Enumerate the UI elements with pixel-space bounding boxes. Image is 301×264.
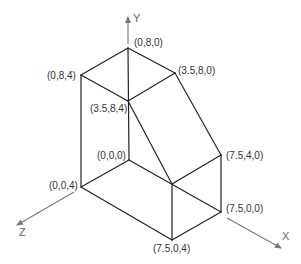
z-axis-label: Z <box>19 226 26 238</box>
edge <box>129 160 221 212</box>
vertex-label-0-8-4: (0,8,4) <box>47 70 76 81</box>
x-axis-arrow <box>227 218 281 248</box>
vertex-label-3.5-8-4: (3.5,8,4) <box>90 103 127 114</box>
vertex-label-7.5-0-4: (7.5,0,4) <box>153 243 190 254</box>
vertex-label-7.5-0-0: (7.5,0,0) <box>226 203 263 214</box>
edge <box>175 73 221 155</box>
z-axis-arrow <box>17 192 74 225</box>
x-axis-label: X <box>282 230 290 242</box>
edge <box>81 75 128 101</box>
vertex-label-0-0-0: (0,0,0) <box>97 150 126 161</box>
isometric-diagram: Y X Z (0,8,0) (0,8,4) (3.5,8,0) (3.5,8,4… <box>0 0 301 264</box>
vertex-label-0-0-4: (0,0,4) <box>49 180 78 191</box>
edge <box>81 160 129 187</box>
edge <box>81 48 128 75</box>
edge <box>81 187 172 240</box>
y-axis-label: Y <box>133 12 141 24</box>
vertex-label-3.5-8-0: (3.5,8,0) <box>178 65 215 76</box>
vertex-label-0-8-0: (0,8,0) <box>134 37 163 48</box>
vertex-label-7.5-4-0: (7.5,4,0) <box>226 150 263 161</box>
solid-edges <box>81 48 221 240</box>
edge <box>128 73 175 101</box>
edge <box>128 48 175 73</box>
edge <box>128 48 129 160</box>
edge <box>172 155 221 184</box>
edge <box>172 212 221 240</box>
